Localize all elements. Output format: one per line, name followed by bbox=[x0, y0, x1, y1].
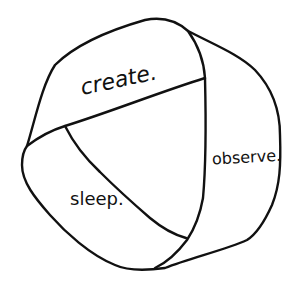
label-sleep: sleep. bbox=[70, 188, 124, 209]
ball-diagram: create. observe. sleep. bbox=[0, 0, 300, 293]
label-observe: observe. bbox=[212, 146, 282, 169]
label-create: create. bbox=[78, 59, 159, 100]
observe-divider bbox=[155, 31, 206, 268]
outer-outline bbox=[22, 19, 280, 270]
sleep-band-edge bbox=[65, 126, 186, 238]
